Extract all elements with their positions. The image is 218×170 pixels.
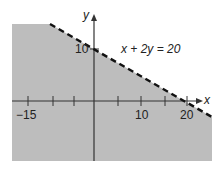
x-tick-label-10: 10 [135, 108, 149, 122]
shaded-region [12, 24, 212, 161]
x-axis-label: x [203, 93, 211, 107]
y-axis-label: y [82, 8, 90, 22]
y-tick-label-10: 10 [75, 42, 89, 56]
inequality-graph: −15 10 20 10 x y x + 2y = 20 [0, 0, 218, 170]
x-tick-label-20: 20 [180, 108, 194, 122]
x-tick-label-neg15: −15 [16, 108, 37, 122]
equation-label: x + 2y = 20 [120, 42, 181, 56]
y-axis-arrow-icon [91, 14, 97, 21]
x-axis-arrow-icon [196, 98, 203, 104]
